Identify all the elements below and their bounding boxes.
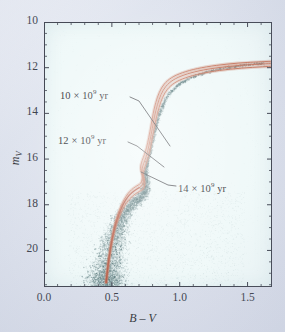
x-tick-label: 1.0 — [166, 291, 194, 303]
y-tick-label: 20 — [16, 242, 38, 254]
x-tick-label: 0.5 — [98, 291, 126, 303]
x-tick-label: 1.5 — [234, 291, 262, 303]
x-tick-label: 0.0 — [30, 291, 58, 303]
figure-canvas: 0.00.51.01.5101214161820 10 × 109 yr12 ×… — [0, 0, 285, 332]
annotation-iso-10: 10 × 109 yr — [60, 88, 108, 101]
y-tick-label: 12 — [16, 60, 38, 72]
y-tick-label: 10 — [16, 14, 38, 26]
plot-graphics — [44, 22, 272, 287]
x-axis-label: B – V — [0, 311, 285, 326]
y-axis-label: mV — [8, 138, 24, 178]
plot-area — [44, 22, 272, 287]
y-tick-label: 18 — [16, 197, 38, 209]
annotation-iso-14: 14 × 109 yr — [178, 181, 226, 194]
isochrone-curves — [106, 61, 272, 282]
y-tick-label: 14 — [16, 105, 38, 117]
annotation-iso-12: 12 × 109 yr — [58, 133, 106, 146]
